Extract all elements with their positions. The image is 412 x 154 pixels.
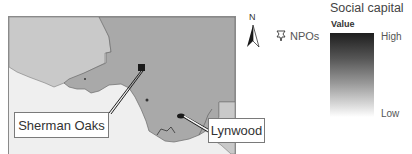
- north-arrow-icon: [246, 14, 262, 50]
- npo-legend: NPOs: [276, 30, 319, 42]
- legend-high-label: High: [381, 31, 402, 42]
- legend-subtitle: Value: [331, 19, 355, 29]
- npo-legend-label: NPOs: [290, 30, 319, 42]
- legend-gradient-bar: [330, 33, 374, 117]
- npo-marker-icon: [276, 30, 286, 42]
- legend-title: Social capital: [330, 1, 404, 15]
- callout-label: Sherman Oaks: [18, 118, 105, 133]
- sherman-oaks-marker[interactable]: [138, 64, 145, 71]
- callout-sherman-oaks: Sherman Oaks: [14, 112, 109, 138]
- callout-lynwood: Lynwood: [208, 118, 265, 143]
- callout-label: Lynwood: [211, 123, 263, 138]
- npo-point: [146, 99, 149, 102]
- npo-point: [84, 78, 86, 80]
- legend-low-label: Low: [381, 108, 399, 119]
